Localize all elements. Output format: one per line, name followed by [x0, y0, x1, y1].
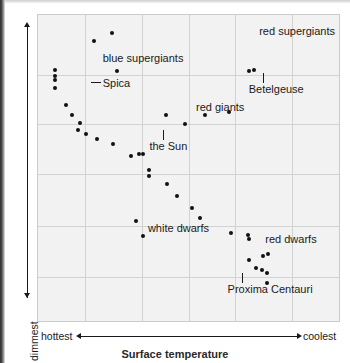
x-axis-arrow-right-icon: [297, 333, 302, 339]
gridline-horizontal-4: [38, 277, 339, 278]
leader-line-betelgeuse: [263, 73, 264, 83]
star-data-point: [84, 132, 88, 136]
star-data-point: [134, 219, 138, 223]
star-data-point: [198, 216, 202, 220]
star-data-point: [110, 31, 114, 35]
star-data-point: [252, 68, 256, 72]
star-data-point: [183, 122, 187, 126]
hr-diagram-figure: Luminosity brightest dimmest blue superg…: [0, 0, 350, 363]
annotation-red-dwarfs: red dwarfs: [265, 234, 316, 245]
gridline-vertical-4: [292, 15, 293, 321]
star-data-point: [254, 266, 258, 270]
star-data-point: [129, 154, 133, 158]
star-data-point: [247, 69, 251, 73]
annotation-white-dwarfs: white dwarfs: [148, 223, 209, 234]
star-data-point: [64, 103, 68, 107]
y-axis-line: [27, 26, 28, 298]
leader-line-the-sun: [163, 130, 164, 140]
x-axis-line: [81, 336, 298, 337]
star-data-point: [111, 142, 115, 146]
annotation-betelgeuse: Betelgeuse: [249, 84, 304, 95]
star-data-point: [115, 69, 119, 73]
star-data-point: [260, 268, 264, 272]
star-data-point: [229, 231, 233, 235]
star-data-point: [95, 137, 99, 141]
star-data-point: [147, 174, 151, 178]
star-data-point: [141, 152, 145, 156]
leader-line-proxima-centauri: [242, 273, 243, 283]
annotation-red-supergiants: red supergiants: [259, 26, 335, 37]
star-data-point: [261, 254, 265, 258]
x-axis-tick-coolest: coolest: [303, 330, 336, 342]
annotation-blue-supergiants: blue supergiants: [103, 53, 184, 64]
gridline-horizontal-2: [38, 174, 339, 175]
star-data-point: [190, 206, 194, 210]
gridline-vertical-3: [235, 15, 236, 321]
plot-area: blue supergiantsred supergiantsSpicaBete…: [37, 14, 340, 322]
annotation-red-giants: red giants: [196, 102, 244, 113]
leader-line-spica: [91, 82, 101, 83]
star-data-point: [92, 39, 96, 43]
star-data-point: [164, 113, 168, 117]
x-axis-tick-hottest: hottest: [41, 330, 73, 342]
star-data-point: [53, 86, 57, 90]
gridline-vertical-0: [85, 15, 86, 321]
annotation-proxima-centauri: Proxima Centauri: [228, 284, 313, 295]
star-data-point: [265, 271, 269, 275]
star-data-point: [266, 252, 270, 256]
star-data-point: [76, 128, 80, 132]
star-data-point: [141, 234, 145, 238]
star-data-point: [147, 168, 151, 172]
star-data-point: [165, 182, 169, 186]
gridline-vertical-2: [189, 15, 190, 321]
annotation-the-sun: the Sun: [149, 141, 187, 152]
star-data-point: [247, 258, 251, 262]
annotation-spica: Spica: [103, 78, 131, 89]
star-data-point: [70, 113, 74, 117]
gridline-horizontal-0: [38, 75, 339, 76]
gridline-horizontal-1: [38, 124, 339, 125]
star-data-point: [247, 237, 251, 241]
star-data-point: [53, 78, 57, 82]
star-data-point: [175, 194, 179, 198]
x-axis-title: Surface temperature: [0, 348, 350, 360]
star-data-point: [53, 68, 57, 72]
